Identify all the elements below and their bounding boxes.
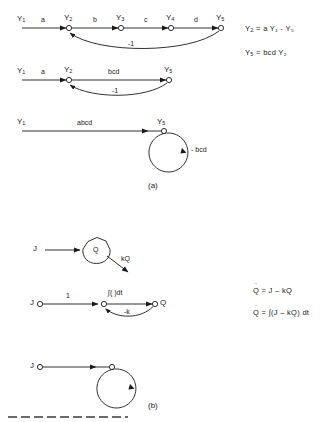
node-label-y5-row1: Y5: [216, 14, 224, 23]
node-label-y1-row3: Y1: [17, 118, 25, 127]
edge-label-bcd-row2: bcd: [108, 68, 119, 75]
node-label-y1-row1: Y1: [17, 15, 25, 24]
edge-label-a-row1: a: [41, 16, 45, 23]
feedback-arc-row1: [70, 31, 219, 49]
label-J-row3-b: J: [30, 362, 34, 370]
node-y4: [168, 25, 173, 30]
label-J-reservoir: J: [33, 245, 37, 253]
panel-b-row-3: [37, 364, 136, 408]
panel-a-row-2: [22, 77, 172, 95]
panel-a-row-3: [22, 128, 188, 172]
node-y5-row3: [161, 128, 166, 133]
equation-qdot-1: Q ̇ = J – kQ: [253, 287, 292, 295]
panel-b-row-1: [45, 238, 128, 273]
panel-b-label: (b): [148, 402, 158, 410]
node-label-y5-row2: Y5: [164, 66, 172, 75]
node-J-row2: [37, 301, 42, 306]
node-J-row3: [37, 364, 42, 369]
feedback-label-minus-k: -k: [124, 308, 130, 315]
label-Q-row2-b: Q: [160, 299, 166, 307]
label-kQ-outflow: kQ: [121, 255, 130, 262]
node-y3: [118, 25, 123, 30]
equation-qdot-2: Q ̇ = ∫(J – kQ) dt: [253, 309, 309, 317]
feedback-arc-row2: [70, 83, 167, 95]
label-J-row2-b: J: [30, 299, 34, 307]
node-loop-row3: [109, 364, 114, 369]
label-Q-store: Q: [93, 246, 98, 253]
feedback-label-row1: -1: [128, 40, 134, 47]
figure-canvas: Y1 Y2 Y3 Y4 Y5 a b c d -1 Y2 = a Y₁ - Y₅…: [0, 0, 328, 422]
self-loop-label-row3: - bcd: [191, 146, 207, 153]
edge-label-abcd-row3: abcd: [77, 119, 92, 126]
edge-label-gain-1: 1: [66, 292, 70, 299]
node-label-y2-row1: Y2: [64, 14, 72, 23]
node-label-y5-row3: Y5: [157, 118, 165, 127]
edge-label-a-row2: a: [41, 68, 45, 75]
node-label-y1-row2: Y1: [17, 67, 25, 76]
node-label-y4-row1: Y4: [166, 14, 174, 23]
node-y2-row2: [66, 77, 71, 82]
signal-flow-graph-svg: [0, 0, 328, 422]
self-loop-arrowhead-row3: [180, 148, 186, 153]
edge-label-c-row1: c: [144, 16, 148, 23]
node-y2: [66, 25, 71, 30]
panel-b-row-2: [37, 301, 157, 316]
equation-y2: Y2 = a Y₁ - Y₅: [245, 25, 294, 34]
node-label-y3-row1: Y3: [116, 14, 124, 23]
panel-a-row-1: [22, 25, 224, 48]
feedback-label-row2: -1: [112, 87, 118, 94]
node-label-y2-row2: Y2: [64, 66, 72, 75]
edge-label-integral-dt: ∫( )dt: [108, 289, 122, 296]
node-y5: [218, 25, 223, 30]
edge-label-d-row1: d: [194, 16, 198, 23]
self-loop-arrowhead-row3-b: [128, 384, 134, 389]
edge-label-b-row1: b: [93, 16, 97, 23]
node-mid-row2: [101, 301, 106, 306]
equation-y5: Y5 = bcd Y₂: [245, 49, 287, 58]
clipped-caption-line: [8, 416, 128, 418]
node-y5-row2: [166, 77, 171, 82]
panel-a-label: (a): [148, 182, 158, 190]
node-Q-row2: [152, 301, 157, 306]
